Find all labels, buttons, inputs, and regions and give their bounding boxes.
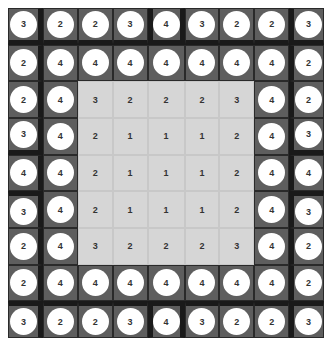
disc-cell[interactable]: 3 bbox=[289, 191, 324, 228]
disc-cell[interactable]: 2 bbox=[8, 265, 43, 302]
disc-cell[interactable]: 4 bbox=[219, 45, 254, 82]
disc-cell[interactable]: 2 bbox=[289, 228, 324, 265]
inner-cell[interactable]: 1 bbox=[148, 191, 185, 228]
disc-cell[interactable]: 2 bbox=[78, 8, 113, 45]
inner-cell[interactable]: 2 bbox=[148, 81, 185, 118]
inner-cell[interactable]: 1 bbox=[113, 118, 148, 155]
cell-value: 1 bbox=[128, 131, 133, 141]
disc-value: 4 bbox=[153, 269, 180, 296]
disc-cell[interactable]: 4 bbox=[43, 191, 78, 228]
game-board: 3223432232444444422432223423421112434421… bbox=[8, 8, 324, 338]
disc-cell[interactable]: 4 bbox=[148, 265, 185, 302]
disc-cell[interactable]: 2 bbox=[289, 81, 324, 118]
disc-cell[interactable]: 3 bbox=[289, 118, 324, 155]
inner-cell[interactable]: 2 bbox=[185, 81, 220, 118]
cell-value: 1 bbox=[128, 168, 133, 178]
disc-cell[interactable]: 4 bbox=[43, 265, 78, 302]
inner-cell[interactable]: 1 bbox=[185, 191, 220, 228]
disc-cell[interactable]: 3 bbox=[113, 301, 148, 338]
disc-cell[interactable]: 4 bbox=[43, 155, 78, 192]
disc-cell[interactable]: 4 bbox=[43, 81, 78, 118]
disc-value: 2 bbox=[223, 308, 250, 335]
disc-cell[interactable]: 4 bbox=[254, 228, 289, 265]
disc-value: 2 bbox=[47, 308, 74, 335]
inner-cell[interactable]: 2 bbox=[148, 228, 185, 265]
disc-cell[interactable]: 4 bbox=[254, 155, 289, 192]
inner-cell[interactable]: 2 bbox=[219, 155, 254, 192]
disc-cell[interactable]: 2 bbox=[8, 228, 43, 265]
inner-cell[interactable]: 2 bbox=[219, 191, 254, 228]
inner-cell[interactable]: 2 bbox=[78, 191, 113, 228]
disc-cell[interactable]: 3 bbox=[185, 301, 220, 338]
disc-cell[interactable]: 4 bbox=[78, 265, 113, 302]
disc-cell[interactable]: 2 bbox=[8, 81, 43, 118]
disc-cell[interactable]: 2 bbox=[219, 8, 254, 45]
cell-value: 2 bbox=[234, 205, 239, 215]
inner-cell[interactable]: 2 bbox=[219, 118, 254, 155]
disc-value: 2 bbox=[295, 233, 322, 260]
disc-cell[interactable]: 4 bbox=[43, 228, 78, 265]
cell-value: 3 bbox=[93, 95, 98, 105]
disc-cell[interactable]: 3 bbox=[8, 191, 43, 228]
inner-cell[interactable]: 1 bbox=[148, 118, 185, 155]
inner-cell[interactable]: 3 bbox=[78, 81, 113, 118]
disc-cell[interactable]: 4 bbox=[254, 265, 289, 302]
inner-cell[interactable]: 3 bbox=[219, 81, 254, 118]
inner-cell[interactable]: 1 bbox=[113, 191, 148, 228]
disc-cell[interactable]: 3 bbox=[185, 8, 220, 45]
disc-cell[interactable]: 4 bbox=[254, 191, 289, 228]
disc-cell[interactable]: 4 bbox=[219, 265, 254, 302]
disc-cell[interactable]: 4 bbox=[289, 155, 324, 192]
disc-cell[interactable]: 3 bbox=[8, 118, 43, 155]
inner-cell[interactable]: 2 bbox=[185, 228, 220, 265]
disc-value: 4 bbox=[82, 49, 109, 76]
disc-cell[interactable]: 4 bbox=[185, 265, 220, 302]
inner-cell[interactable]: 2 bbox=[113, 228, 148, 265]
disc-cell[interactable]: 2 bbox=[8, 45, 43, 82]
inner-cell[interactable]: 2 bbox=[78, 155, 113, 192]
disc-value: 4 bbox=[258, 86, 285, 113]
disc-cell[interactable]: 2 bbox=[43, 8, 78, 45]
disc-cell[interactable]: 2 bbox=[78, 301, 113, 338]
disc-cell[interactable]: 4 bbox=[254, 118, 289, 155]
disc-cell[interactable]: 4 bbox=[43, 118, 78, 155]
disc-cell[interactable]: 4 bbox=[8, 155, 43, 192]
inner-cell[interactable]: 1 bbox=[185, 155, 220, 192]
disc-cell[interactable]: 2 bbox=[289, 265, 324, 302]
disc-value: 4 bbox=[153, 49, 180, 76]
inner-cell[interactable]: 1 bbox=[148, 155, 185, 192]
disc-cell[interactable]: 4 bbox=[148, 45, 185, 82]
disc-cell[interactable]: 3 bbox=[289, 8, 324, 45]
disc-cell[interactable]: 2 bbox=[43, 301, 78, 338]
disc-cell[interactable]: 4 bbox=[148, 8, 185, 45]
disc-value: 4 bbox=[258, 269, 285, 296]
disc-cell[interactable]: 2 bbox=[254, 301, 289, 338]
inner-cell[interactable]: 2 bbox=[78, 118, 113, 155]
disc-cell[interactable]: 4 bbox=[43, 45, 78, 82]
inner-cell[interactable]: 1 bbox=[113, 155, 148, 192]
disc-cell[interactable]: 3 bbox=[8, 301, 43, 338]
disc-cell[interactable]: 2 bbox=[254, 8, 289, 45]
inner-cell[interactable]: 1 bbox=[185, 118, 220, 155]
disc-value: 3 bbox=[295, 121, 322, 148]
disc-cell[interactable]: 3 bbox=[8, 8, 43, 45]
disc-value: 4 bbox=[47, 86, 74, 113]
disc-cell[interactable]: 4 bbox=[185, 45, 220, 82]
disc-cell[interactable]: 4 bbox=[254, 81, 289, 118]
disc-value: 2 bbox=[47, 11, 74, 38]
disc-cell[interactable]: 3 bbox=[289, 301, 324, 338]
disc-value: 2 bbox=[10, 49, 37, 76]
inner-cell[interactable]: 3 bbox=[219, 228, 254, 265]
disc-cell[interactable]: 4 bbox=[78, 45, 113, 82]
disc-value: 2 bbox=[82, 11, 109, 38]
disc-cell[interactable]: 4 bbox=[113, 45, 148, 82]
disc-cell[interactable]: 2 bbox=[219, 301, 254, 338]
disc-cell[interactable]: 4 bbox=[113, 265, 148, 302]
inner-cell[interactable]: 2 bbox=[113, 81, 148, 118]
cell-value: 2 bbox=[93, 131, 98, 141]
disc-cell[interactable]: 3 bbox=[113, 8, 148, 45]
disc-cell[interactable]: 4 bbox=[148, 301, 185, 338]
inner-cell[interactable]: 3 bbox=[78, 228, 113, 265]
disc-cell[interactable]: 4 bbox=[254, 45, 289, 82]
disc-cell[interactable]: 2 bbox=[289, 45, 324, 82]
